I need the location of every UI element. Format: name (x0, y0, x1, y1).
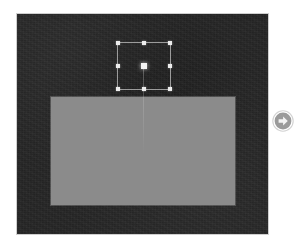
toolbar-remnant-text (4, 0, 292, 4)
resize-handle-bottom-left[interactable] (116, 87, 120, 91)
resize-handle-middle-left[interactable] (116, 64, 120, 68)
resize-handle-top-center[interactable] (142, 41, 146, 45)
selected-object-bounding-box[interactable] (117, 42, 171, 90)
move-handle-center[interactable] (141, 63, 147, 69)
slide-canvas[interactable] (16, 13, 269, 235)
cut-off-toolbar-remnant (0, 0, 296, 7)
resize-handle-bottom-right[interactable] (168, 87, 172, 91)
circle-arrow-right-icon (272, 110, 294, 132)
resize-handle-middle-right[interactable] (168, 64, 172, 68)
resize-handle-top-left[interactable] (116, 41, 120, 45)
resize-handle-top-right[interactable] (168, 41, 172, 45)
next-arrow-button[interactable] (272, 110, 294, 132)
resize-handle-bottom-center[interactable] (142, 87, 146, 91)
gray-rectangle-shape[interactable] (51, 97, 235, 205)
